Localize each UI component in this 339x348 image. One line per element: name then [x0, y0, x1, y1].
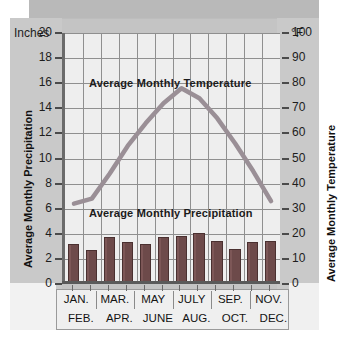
- temperature-line: [65, 33, 280, 284]
- right-axis-tick-label: 90: [292, 50, 326, 64]
- month-separator: [211, 291, 212, 309]
- month-tick-mark: [72, 285, 73, 291]
- right-axis-tick-mark: [282, 283, 289, 285]
- right-axis-title: Average Monthly Temperature: [325, 125, 337, 282]
- precipitation-annotation: Average Monthly Precipitation: [89, 207, 253, 219]
- left-axis-tick-mark: [55, 258, 62, 260]
- backdrop-notch-right: [289, 283, 319, 330]
- right-axis-tick-label: 30: [292, 201, 326, 215]
- left-axis-tick-mark: [55, 208, 62, 210]
- left-axis-tick-mark: [55, 283, 62, 285]
- month-label: APR.: [100, 312, 139, 324]
- right-axis-tick-mark: [282, 132, 289, 134]
- month-tick-mark: [197, 285, 198, 291]
- month-tick-mark: [144, 285, 145, 291]
- left-axis-tick-label: 10: [22, 151, 52, 165]
- right-axis-tick-label: 50: [292, 151, 326, 165]
- plot-area: Average Monthly Temperature Average Mont…: [62, 33, 280, 284]
- climate-chart-figure: Inches °F Average Monthly Precipitation …: [0, 0, 339, 348]
- month-label: MAY: [134, 293, 173, 305]
- right-axis-tick-mark: [282, 82, 289, 84]
- right-axis-tick-mark: [282, 107, 289, 109]
- left-axis-tick-mark: [55, 158, 62, 160]
- left-axis-tick-label: 8: [22, 176, 52, 190]
- right-axis-tick-mark: [282, 258, 289, 260]
- right-axis-tick-label: 80: [292, 75, 326, 89]
- left-axis-tick-label: 14: [22, 100, 52, 114]
- right-axis-tick-label: 100: [292, 25, 326, 39]
- month-axis-labels: JAN.MAR.MAYJULYSEP.NOV.FEB.APR.JUNEAUG.O…: [56, 289, 289, 330]
- left-axis-tick-label: 18: [22, 50, 52, 64]
- left-axis-tick-mark: [55, 32, 62, 34]
- right-axis-tick-label: 60: [292, 125, 326, 139]
- right-axis-tick-mark: [282, 32, 289, 34]
- left-axis-tick-label: 12: [22, 125, 52, 139]
- month-label: NOV.: [250, 293, 289, 305]
- left-axis-tick-mark: [55, 233, 62, 235]
- right-axis-tick-mark: [282, 57, 289, 59]
- month-label: SEP.: [211, 293, 250, 305]
- right-axis-tick-mark: [282, 208, 289, 210]
- right-axis-tick-mark: [282, 183, 289, 185]
- backdrop-notch-left: [10, 283, 56, 330]
- month-label: JUNE: [139, 312, 178, 324]
- month-separator: [134, 291, 135, 309]
- right-axis-tick-label: 40: [292, 176, 326, 190]
- month-tick-mark: [215, 285, 216, 291]
- left-axis-tick-label: 4: [22, 226, 52, 240]
- left-axis-tick-label: 0: [22, 276, 52, 290]
- month-tick-mark: [233, 285, 234, 291]
- temperature-polyline: [74, 88, 271, 203]
- right-axis-tick-mark: [282, 158, 289, 160]
- left-axis-tick-mark: [55, 57, 62, 59]
- month-label: OCT.: [216, 312, 255, 324]
- month-label: JULY: [173, 293, 212, 305]
- month-tick-mark: [108, 285, 109, 291]
- month-label: AUG.: [177, 312, 216, 324]
- left-axis-tick-label: 20: [22, 25, 52, 39]
- left-axis-tick-mark: [55, 183, 62, 185]
- right-axis-tick-label: 0: [292, 276, 326, 290]
- left-axis-tick-mark: [55, 132, 62, 134]
- month-tick-mark: [90, 285, 91, 291]
- right-axis-tick-mark: [282, 233, 289, 235]
- left-axis-tick-label: 2: [22, 251, 52, 265]
- month-tick-mark: [162, 285, 163, 291]
- left-axis-tick-mark: [55, 82, 62, 84]
- month-separator: [173, 291, 174, 309]
- month-tick-mark: [251, 285, 252, 291]
- month-label: FEB.: [62, 312, 101, 324]
- month-label: DEC.: [254, 312, 293, 324]
- right-axis-tick-label: 20: [292, 226, 326, 240]
- month-separator: [96, 291, 97, 309]
- month-label: JAN.: [57, 293, 96, 305]
- x-axis-line: [62, 281, 280, 284]
- month-separator: [250, 291, 251, 309]
- month-label: MAR.: [96, 293, 135, 305]
- month-tick-mark: [126, 285, 127, 291]
- month-tick-mark: [179, 285, 180, 291]
- left-axis-tick-mark: [55, 107, 62, 109]
- left-axis-tick-label: 16: [22, 75, 52, 89]
- left-axis-tick-label: 6: [22, 201, 52, 215]
- right-axis-tick-label: 70: [292, 100, 326, 114]
- month-tick-mark: [269, 285, 270, 291]
- temperature-annotation: Average Monthly Temperature: [89, 77, 252, 89]
- right-axis-tick-label: 10: [292, 251, 326, 265]
